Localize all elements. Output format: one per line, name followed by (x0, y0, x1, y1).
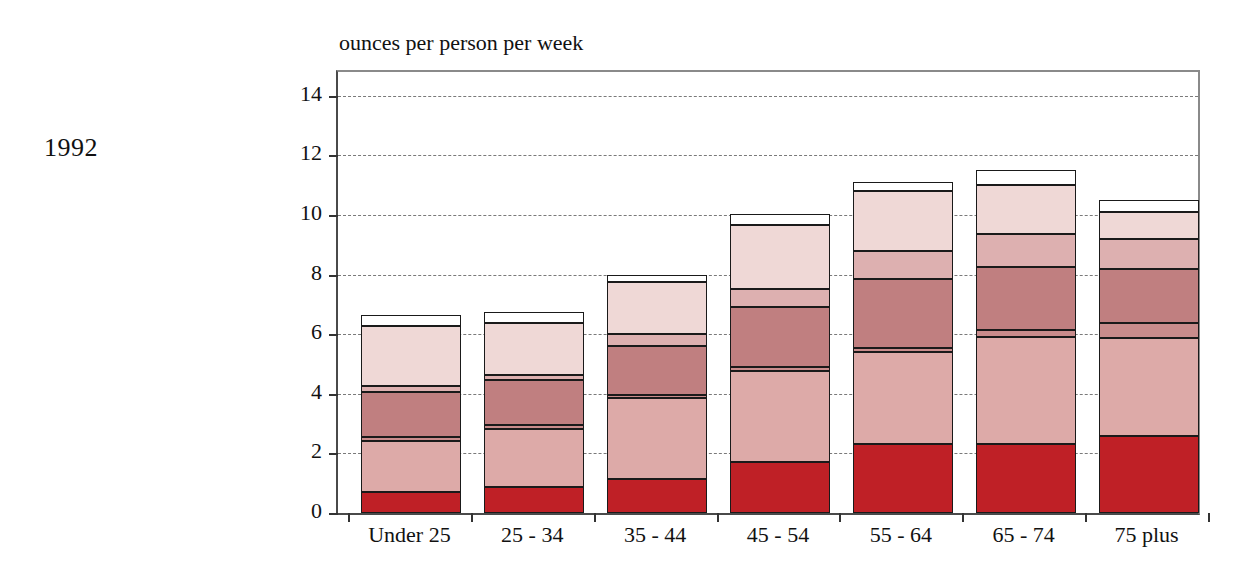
bar-segment (976, 330, 1076, 337)
x-axis-category-label: 65 - 74 (993, 522, 1055, 548)
x-axis-tick (594, 513, 596, 522)
bar-segment (484, 429, 584, 487)
y-axis-tick-label: 0 (280, 498, 322, 524)
bar-segment (853, 251, 953, 279)
year-annotation: 1992 (44, 133, 98, 163)
bar-segment (730, 462, 830, 513)
bar-segment (730, 307, 830, 367)
y-axis-tick (329, 96, 338, 98)
x-axis-labels: Under 2525 - 3435 - 4445 - 5455 - 6465 -… (336, 522, 1200, 562)
x-axis-tick (717, 513, 719, 522)
bar-stack (484, 72, 584, 513)
bar-segment (607, 395, 707, 398)
bar-stack (730, 72, 830, 513)
y-axis-tick-label: 6 (280, 319, 322, 345)
bar-stack (607, 72, 707, 513)
bar-segment (361, 326, 461, 386)
x-axis-tick (348, 513, 350, 522)
x-axis-tick (962, 513, 964, 522)
bar-segment (976, 337, 1076, 444)
bar-segment (1099, 436, 1199, 513)
bar-segment (853, 444, 953, 513)
x-axis-category-label: 35 - 44 (624, 522, 686, 548)
bar-segment (853, 182, 953, 191)
bar-segment (607, 275, 707, 282)
bar-segment (1099, 212, 1199, 239)
x-axis-category-label: 45 - 54 (747, 522, 809, 548)
y-axis-tick (329, 334, 338, 336)
bar-segment (1099, 323, 1199, 338)
bar-segment (361, 392, 461, 437)
bar-segment (853, 279, 953, 348)
bar-segment (484, 312, 584, 322)
bar-segment (361, 441, 461, 492)
bar-segment (853, 352, 953, 444)
bar-segment (976, 267, 1076, 330)
bar-segment (484, 380, 584, 425)
y-axis-tick (329, 513, 338, 515)
x-axis-category-label: Under 25 (368, 522, 450, 548)
plot-area (336, 70, 1200, 515)
y-axis-tick-label: 14 (280, 81, 322, 107)
y-axis-tick (329, 453, 338, 455)
bar-segment (361, 492, 461, 513)
bar-segment (730, 225, 830, 288)
bar-segment (730, 214, 830, 226)
bar-segment (607, 346, 707, 395)
bar-segment (607, 334, 707, 347)
y-axis-tick (329, 394, 338, 396)
y-axis-tick (329, 275, 338, 277)
bar-segment (853, 348, 953, 352)
bar-segment (1099, 239, 1199, 269)
x-axis-tick (1085, 513, 1087, 522)
bar-segment (730, 367, 830, 371)
x-axis-category-label: 55 - 64 (870, 522, 932, 548)
x-axis-tick (839, 513, 841, 522)
bar-segment (607, 282, 707, 334)
bar-segment (976, 170, 1076, 185)
y-axis-tick-label: 8 (280, 260, 322, 286)
y-axis-tick-label: 4 (280, 379, 322, 405)
bar-segment (484, 425, 584, 429)
bar-segment (853, 191, 953, 251)
bar-stack (853, 72, 953, 513)
x-axis-tick (471, 513, 473, 522)
bar-segment (976, 234, 1076, 267)
bar-segment (976, 444, 1076, 513)
bar-segment (730, 289, 830, 307)
y-axis-tick-label: 12 (280, 140, 322, 166)
y-axis-tick (329, 215, 338, 217)
bar-segment (607, 398, 707, 478)
y-axis-tick-label: 10 (280, 200, 322, 226)
plot-inner (338, 72, 1198, 513)
axis-title: ounces per person per week (339, 30, 583, 56)
bar-segment (1099, 338, 1199, 436)
bar-stack (1099, 72, 1199, 513)
bar-segment (1099, 200, 1199, 212)
bar-stack (976, 72, 1076, 513)
x-axis-category-label: 25 - 34 (501, 522, 563, 548)
bar-segment (730, 371, 830, 461)
bar-segment (361, 386, 461, 393)
x-axis-tick (1208, 513, 1210, 522)
y-axis-tick (329, 155, 338, 157)
bar-stack (361, 72, 461, 513)
x-axis-category-label: 75 plus (1114, 522, 1178, 548)
bar-segment (607, 479, 707, 513)
bar-segment (1099, 269, 1199, 323)
bar-segment (976, 185, 1076, 234)
bar-segment (484, 375, 584, 380)
chart-container: 1992 ounces per person per week 02468101… (0, 0, 1247, 581)
y-axis-tick-label: 2 (280, 438, 322, 464)
bar-segment (484, 323, 584, 375)
bar-segment (484, 487, 584, 513)
bar-segment (361, 315, 461, 326)
bar-segment (361, 437, 461, 441)
